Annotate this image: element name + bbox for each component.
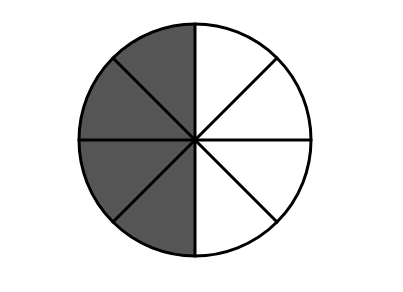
- fraction-circle: [0, 0, 403, 292]
